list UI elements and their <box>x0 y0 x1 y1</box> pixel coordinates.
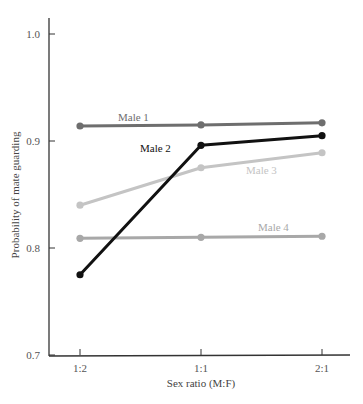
data-point <box>197 121 204 128</box>
series-line <box>80 153 322 205</box>
data-point <box>76 202 83 209</box>
data-point <box>318 233 325 240</box>
axes <box>49 18 350 356</box>
x-axis <box>49 355 350 356</box>
series-label: Male 1 <box>118 111 149 123</box>
x-tick-label: 1:2 <box>73 362 87 374</box>
y-ticks: 0.70.80.91.0 <box>26 28 55 361</box>
series-male-2 <box>76 132 325 278</box>
x-tick-label: 1:1 <box>194 362 208 374</box>
data-point <box>76 122 83 129</box>
y-tick-label: 1.0 <box>26 28 40 40</box>
y-axis-title: Probability of mate guarding <box>9 131 21 258</box>
series-label: Male 2 <box>140 142 171 154</box>
series-male-1 <box>76 119 325 129</box>
y-tick-label: 0.9 <box>26 135 40 147</box>
x-ticks: 1:21:12:1 <box>73 349 329 374</box>
data-point <box>318 119 325 126</box>
data-point <box>197 234 204 241</box>
series-label: Male 3 <box>246 164 277 176</box>
y-tick-label: 0.8 <box>26 242 40 254</box>
series-male-3 <box>76 149 325 209</box>
data-point <box>197 164 204 171</box>
data-point <box>318 132 325 139</box>
data-point <box>76 235 83 242</box>
series-label: Male 4 <box>258 221 289 233</box>
series-lines <box>76 119 325 278</box>
x-tick-label: 2:1 <box>315 362 329 374</box>
x-axis-title: Sex ratio (M:F) <box>167 377 236 390</box>
data-point <box>318 149 325 156</box>
data-point <box>76 271 83 278</box>
series-labels: Male 4Male 3Male 1Male 2 <box>118 111 289 233</box>
line-chart: 0.70.80.91.0 1:21:12:1 Male 4Male 3Male … <box>0 0 363 404</box>
data-point <box>197 142 204 149</box>
y-tick-label: 0.7 <box>26 349 40 361</box>
